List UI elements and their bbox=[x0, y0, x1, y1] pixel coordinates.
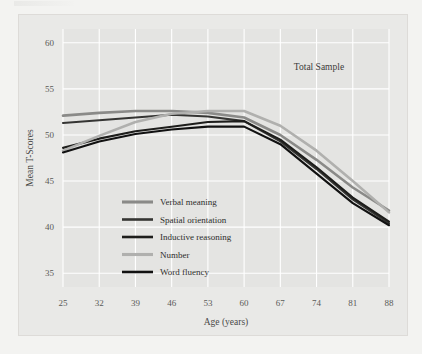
x-axis-tick-labels: 25323946536067748188 bbox=[59, 298, 395, 308]
figure-canvas: 354045505560 25323946536067748188 Total … bbox=[0, 0, 422, 354]
x-tick-label: 39 bbox=[131, 298, 141, 308]
y-tick-label: 55 bbox=[45, 84, 55, 94]
line-chart: 354045505560 25323946536067748188 Total … bbox=[19, 15, 407, 335]
x-tick-label: 32 bbox=[95, 298, 104, 308]
x-tick-label: 88 bbox=[385, 298, 395, 308]
x-tick-label: 25 bbox=[59, 298, 69, 308]
y-tick-label: 45 bbox=[45, 176, 55, 186]
legend-item-label: Word fluency bbox=[160, 267, 210, 277]
x-axis-title: Age (years) bbox=[204, 317, 249, 328]
x-tick-label: 53 bbox=[203, 298, 213, 308]
x-tick-label: 74 bbox=[312, 298, 322, 308]
y-axis-title: Mean T-Scores bbox=[25, 129, 35, 187]
y-tick-label: 50 bbox=[45, 130, 55, 140]
y-tick-label: 40 bbox=[45, 222, 55, 232]
legend-item-label: Verbal meaning bbox=[160, 197, 217, 207]
total-sample-annotation: Total Sample bbox=[294, 62, 344, 72]
legend-item-label: Inductive reasoning bbox=[160, 232, 232, 242]
scan-artifact bbox=[14, 1, 74, 6]
legend-item-label: Number bbox=[160, 250, 190, 260]
y-tick-label: 35 bbox=[45, 268, 55, 278]
y-tick-label: 60 bbox=[45, 38, 55, 48]
x-tick-label: 67 bbox=[276, 298, 286, 308]
x-tick-label: 46 bbox=[167, 298, 177, 308]
x-tick-label: 60 bbox=[240, 298, 250, 308]
legend-item-label: Spatial orientation bbox=[160, 215, 227, 225]
chart-panel: 354045505560 25323946536067748188 Total … bbox=[18, 14, 408, 336]
y-axis-tick-labels: 354045505560 bbox=[45, 38, 55, 278]
x-tick-label: 81 bbox=[348, 298, 357, 308]
